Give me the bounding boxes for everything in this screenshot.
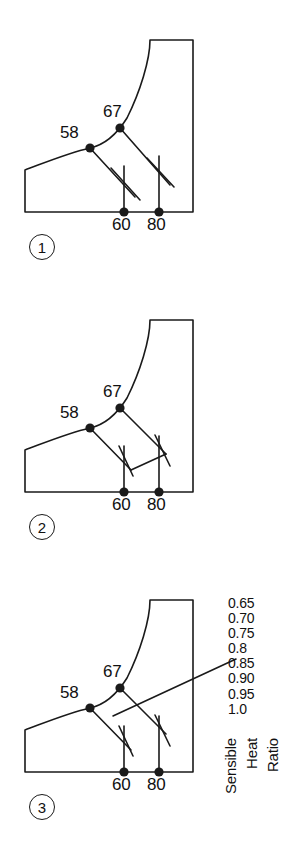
step-number-badge-2: 2 (29, 514, 55, 540)
state-label-67: 67 (103, 383, 121, 400)
step-number-badge-1: 1 (29, 234, 55, 260)
panel-step-2: 58 67 60 80 2 (0, 280, 300, 561)
state-label-60: 60 (112, 216, 130, 233)
closing-line-2 (131, 454, 166, 470)
state-label-80: 80 (147, 216, 165, 233)
tick-cross-80-1 (147, 158, 174, 187)
process-line-67-80-1 (120, 128, 170, 185)
tick-cross-60-1 (111, 168, 140, 200)
state-point-58-marker-1 (85, 143, 94, 152)
shr-tick-value: 0.95 (228, 687, 290, 702)
panel-step-1: 58 67 60 80 1 (0, 0, 300, 281)
state-label-60: 60 (112, 496, 130, 513)
state-label-67: 67 (103, 103, 121, 120)
chart-outline-1 (25, 40, 193, 212)
panel-step-3: 58 67 60 80 3 0.65 0.70 0.75 0.8 0.85 0.… (0, 560, 300, 841)
shr-tick-value: 0.70 (228, 611, 290, 626)
shr-tick-value: 0.85 (228, 656, 290, 671)
shr-caption-word-ratio: Ratio (264, 738, 281, 772)
state-point-67-marker-3 (115, 683, 124, 692)
sensible-heat-ratio-caption: Sensible Heat Ratio (222, 738, 296, 838)
chart-outline-3 (25, 600, 193, 772)
state-point-67-marker-2 (115, 403, 124, 412)
state-label-58: 58 (60, 404, 78, 421)
state-label-58: 58 (60, 124, 78, 141)
state-point-58-marker-3 (85, 703, 94, 712)
process-line-58-60-2 (90, 428, 131, 470)
shr-caption-word-sensible: Sensible (222, 738, 239, 794)
process-line-67-80-2 (120, 408, 166, 454)
shr-tick-value: 0.8 (228, 641, 290, 656)
chart-outline-2 (25, 320, 193, 492)
state-label-80: 80 (147, 496, 165, 513)
state-point-58-marker-2 (85, 423, 94, 432)
process-line-58-60-1 (90, 148, 135, 197)
state-label-60: 60 (112, 776, 130, 793)
shr-tick-value: 0.90 (228, 671, 290, 686)
sensible-heat-ratio-scale: 0.65 0.70 0.75 0.8 0.85 0.90 0.95 1.0 (228, 596, 290, 717)
tick-cross-80-2 (155, 435, 170, 466)
step-number-badge-3: 3 (29, 794, 55, 820)
tick-cross-80-3 (155, 715, 170, 746)
state-point-67-marker-1 (115, 123, 124, 132)
state-label-67: 67 (103, 663, 121, 680)
shr-caption-word-heat: Heat (243, 738, 260, 769)
process-line-58-60-3 (90, 708, 131, 750)
state-label-80: 80 (147, 776, 165, 793)
shr-tick-value: 1.0 (228, 702, 290, 717)
shr-tick-value: 0.75 (228, 626, 290, 641)
shr-tick-value: 0.65 (228, 596, 290, 611)
state-label-58: 58 (60, 684, 78, 701)
